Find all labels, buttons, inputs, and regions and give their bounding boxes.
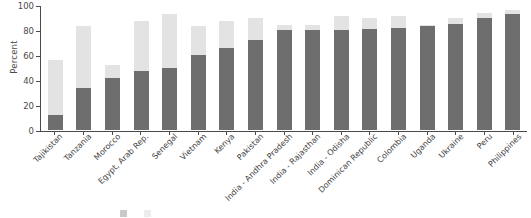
x-axis-tick-label: Dominican Republic [317, 132, 380, 195]
bar-column [356, 6, 385, 130]
y-tick-label: 100 [18, 1, 34, 11]
x-axis-labels: TajikistanTanzaniaMoroccoEgypt, Arab Rep… [40, 132, 527, 192]
bar-segment-light [105, 65, 120, 78]
x-axis-tick-label: Peru [475, 132, 494, 151]
bar-segment-light [162, 14, 177, 68]
x-axis-tick-label: Uganda [409, 132, 437, 160]
bar-segment-dark [334, 30, 349, 130]
x-axis-tick-label: Ukraine [438, 132, 466, 160]
bar-segment-dark [105, 78, 120, 131]
bar-column [384, 6, 413, 130]
bar-column [155, 6, 184, 130]
y-tick-label: 20 [23, 101, 34, 111]
bar-segment-dark [76, 88, 91, 131]
bar-segment-dark [477, 18, 492, 131]
x-axis-tick-label: Tanzania [62, 132, 93, 163]
legend-swatch-dark [120, 210, 127, 217]
x-axis-tick-label: Egypt, Arab Rep. [97, 132, 151, 186]
bar-segment-dark [305, 30, 320, 130]
bar-column [41, 6, 70, 130]
y-tick [36, 6, 40, 7]
bar-segment-light [334, 16, 349, 30]
bar-segment-dark [505, 14, 520, 130]
bar-column [127, 6, 156, 130]
bar-column [298, 6, 327, 130]
y-tick [36, 56, 40, 57]
bar-segment-dark [219, 48, 234, 131]
bar-segment-dark [134, 71, 149, 130]
bar-segment-dark [162, 68, 177, 131]
bar-column [327, 6, 356, 130]
x-axis-tick-label: Vietnam [178, 132, 208, 162]
x-axis-tick-label: Tajikistan [32, 132, 65, 165]
bar-segment-dark [420, 26, 435, 130]
plot-area: 020406080100 [40, 6, 527, 131]
bar-column [70, 6, 99, 130]
y-tick [36, 81, 40, 82]
bar-segment-dark [48, 115, 63, 130]
y-axis-title: Percent [9, 22, 19, 92]
bar-column [241, 6, 270, 130]
legend-item[interactable] [120, 210, 130, 217]
x-axis-tick-label: Colombia [375, 132, 408, 165]
bar-segment-light [48, 60, 63, 115]
bar-segment-dark [448, 24, 463, 130]
bar-column [270, 6, 299, 130]
bar-segment-light [191, 26, 206, 55]
bar-group [41, 6, 527, 130]
bar-column [441, 6, 470, 130]
y-tick-label: 60 [23, 51, 34, 61]
bar-segment-light [76, 26, 91, 87]
legend-swatch-light [144, 210, 151, 217]
bar-segment-dark [248, 40, 263, 130]
bar-column [413, 6, 442, 130]
y-tick [36, 106, 40, 107]
chart-legend [120, 209, 420, 218]
legend-item[interactable] [144, 210, 154, 217]
bar-column [470, 6, 499, 130]
bar-segment-light [219, 21, 234, 47]
x-axis-tick-label: Kenya [213, 132, 237, 156]
bar-segment-light [362, 18, 377, 29]
x-axis-tick-label: Senegal [150, 132, 179, 161]
bar-segment-light [248, 18, 263, 41]
bar-segment-dark [362, 29, 377, 130]
y-tick-label: 80 [23, 26, 34, 36]
bar-column [98, 6, 127, 130]
bar-segment-dark [191, 55, 206, 130]
x-axis-tick-label: India - Rajasthan [268, 132, 322, 186]
bar-segment-light [134, 21, 149, 71]
y-tick-label: 40 [23, 76, 34, 86]
bar-segment-light [391, 16, 406, 27]
bar-column [184, 6, 213, 130]
bar-column [499, 6, 528, 130]
y-tick-label: 0 [29, 126, 34, 136]
bar-column [213, 6, 242, 130]
bar-segment-dark [391, 28, 406, 131]
stacked-bar-chart: Percent 020406080100 TajikistanTanzaniaM… [0, 0, 531, 218]
bar-segment-dark [277, 30, 292, 130]
y-tick [36, 31, 40, 32]
